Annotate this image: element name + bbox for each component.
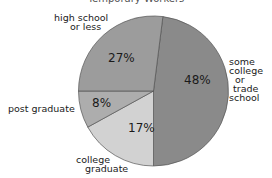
pct-post-graduate: 8% <box>92 96 111 110</box>
pct-college-graduate: 17% <box>128 121 155 135</box>
label-post-graduate: post graduate <box>8 104 75 113</box>
pie-slice <box>154 17 229 166</box>
label-college-graduate: college graduate <box>76 155 128 173</box>
label-line: or less <box>54 22 108 31</box>
pct-some-college: 48% <box>184 73 211 87</box>
label-line: graduate <box>76 164 128 173</box>
label-some-college: some college or trade school <box>229 57 263 102</box>
label-high-school: high school or less <box>54 13 108 31</box>
pie-slices <box>79 16 229 166</box>
pct-high-school: 27% <box>108 51 135 65</box>
label-line: school <box>229 93 263 102</box>
